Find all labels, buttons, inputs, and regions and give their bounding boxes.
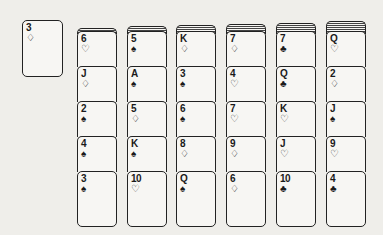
heart-suit-icon: ♡ [330, 149, 339, 159]
heart-suit-icon: ♡ [280, 149, 289, 159]
diamond-suit-icon: ♢ [26, 33, 35, 43]
playing-card[interactable]: J♡ [276, 136, 316, 172]
playing-card[interactable]: 10♣ [276, 171, 316, 227]
diamond-suit-icon: ♢ [330, 79, 339, 89]
playing-card[interactable]: K♡ [276, 101, 316, 137]
diamond-suit-icon: ♢ [180, 149, 189, 159]
playing-card[interactable]: 6♢ [226, 171, 266, 227]
playing-card[interactable]: 9♡ [326, 136, 366, 172]
spade-suit-icon: ♠ [180, 184, 185, 194]
diamond-suit-icon: ♢ [230, 44, 239, 54]
club-suit-icon: ♣ [280, 184, 287, 194]
heart-suit-icon: ♡ [131, 184, 140, 194]
playing-card[interactable]: J♠ [326, 101, 366, 137]
heart-suit-icon: ♡ [280, 114, 289, 124]
playing-card[interactable]: 6♠ [176, 101, 216, 137]
spade-suit-icon: ♠ [131, 79, 136, 89]
spade-suit-icon: ♠ [180, 79, 185, 89]
heart-suit-icon: ♡ [230, 114, 239, 124]
playing-card[interactable]: 9♢ [226, 136, 266, 172]
playing-card[interactable]: 2♠ [77, 101, 117, 137]
playing-card[interactable]: 4♡ [226, 66, 266, 102]
playing-card[interactable]: 3♠ [77, 171, 117, 227]
playing-card[interactable]: J♢ [77, 66, 117, 102]
playing-card[interactable]: 3♠ [176, 66, 216, 102]
heart-suit-icon: ♡ [230, 79, 239, 89]
club-suit-icon: ♣ [330, 184, 337, 194]
diamond-suit-icon: ♢ [81, 79, 90, 89]
diamond-suit-icon: ♢ [180, 44, 189, 54]
diamond-suit-icon: ♢ [131, 114, 140, 124]
waste-card[interactable]: 3 ♢ [22, 20, 63, 77]
heart-suit-icon: ♡ [330, 44, 339, 54]
playing-card[interactable]: 4♠ [77, 136, 117, 172]
playing-card[interactable]: 2♢ [326, 66, 366, 102]
spade-suit-icon: ♠ [81, 184, 86, 194]
playing-card[interactable]: Q♠ [176, 171, 216, 227]
playing-card[interactable]: 5♢ [127, 101, 167, 137]
playing-card[interactable]: Q♡ [326, 31, 366, 67]
playing-card[interactable]: 7♢ [226, 31, 266, 67]
club-suit-icon: ♣ [280, 44, 287, 54]
spade-suit-icon: ♠ [131, 149, 136, 159]
spade-suit-icon: ♠ [81, 114, 86, 124]
playing-card[interactable]: 6♡ [77, 31, 117, 67]
playing-card[interactable]: 10♡ [127, 171, 167, 227]
club-suit-icon: ♣ [280, 79, 287, 89]
spade-suit-icon: ♠ [81, 149, 86, 159]
diamond-suit-icon: ♢ [230, 184, 239, 194]
playing-card[interactable]: K♠ [127, 136, 167, 172]
playing-card[interactable]: 8♢ [176, 136, 216, 172]
heart-suit-icon: ♡ [81, 44, 90, 54]
playing-card[interactable]: Q♣ [276, 66, 316, 102]
spade-suit-icon: ♠ [131, 44, 136, 54]
spade-suit-icon: ♠ [180, 114, 185, 124]
playing-card[interactable]: A♠ [127, 66, 167, 102]
playing-card[interactable]: 7♣ [276, 31, 316, 67]
playing-card[interactable]: 5♠ [127, 31, 167, 67]
playing-card[interactable]: K♢ [176, 31, 216, 67]
diamond-suit-icon: ♢ [230, 149, 239, 159]
playing-card[interactable]: 4♣ [326, 171, 366, 227]
playing-card[interactable]: 7♡ [226, 101, 266, 137]
spade-suit-icon: ♠ [330, 114, 335, 124]
